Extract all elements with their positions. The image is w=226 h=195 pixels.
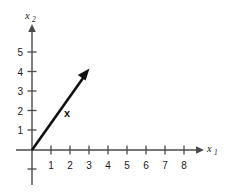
vector-x-group: x	[32, 69, 90, 151]
x-tick-label-1: 1	[48, 160, 54, 171]
y-axis-label-subscript: 2	[32, 15, 36, 24]
vector-x-shaft	[32, 76, 85, 150]
y-tick-label-2: 2	[17, 106, 23, 117]
x-tick-label-5: 5	[124, 160, 130, 171]
y-tick-label-4: 4	[17, 67, 23, 78]
vector-x-arrowhead	[78, 69, 90, 81]
y-axis-group: 5 4 3 2 1 x 2	[17, 10, 36, 185]
vector-plot-figure: 1 2 3 4 5 6 7 8 x 1 5 4 3	[0, 0, 226, 195]
y-axis-label: x	[24, 10, 30, 21]
x-tick-label-3: 3	[86, 160, 92, 171]
x-axis-label: x	[206, 143, 212, 154]
x-tick-label-8: 8	[181, 160, 187, 171]
y-tick-label-3: 3	[17, 86, 23, 97]
x-tick-label-7: 7	[162, 160, 168, 171]
vector-x-label: x	[64, 107, 71, 119]
y-tick-label-1: 1	[17, 125, 23, 136]
x-tick-label-4: 4	[105, 160, 111, 171]
coordinate-plot-svg: 1 2 3 4 5 6 7 8 x 1 5 4 3	[0, 0, 226, 195]
x-tick-label-2: 2	[67, 160, 73, 171]
x-axis-group: 1 2 3 4 5 6 7 8 x 1	[16, 143, 218, 171]
x-axis-arrowhead	[196, 146, 204, 154]
x-axis-label-subscript: 1	[214, 148, 218, 157]
y-tick-label-5: 5	[17, 47, 23, 58]
x-tick-label-6: 6	[143, 160, 149, 171]
y-axis-arrowhead	[28, 24, 36, 32]
